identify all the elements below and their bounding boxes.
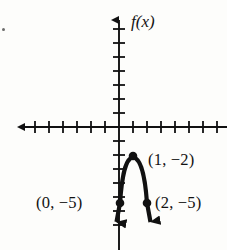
right-point-marker <box>143 199 152 208</box>
y-axis-label: f(x) <box>131 12 155 32</box>
right-point-label: (2, −5) <box>155 193 201 213</box>
graph-figure: f(x) (1, −2) (0, −5) (2, −5) <box>0 0 227 250</box>
parabola-curve <box>117 157 151 222</box>
x-axis <box>25 121 227 133</box>
left-point-marker <box>116 199 125 208</box>
vertex-point-marker <box>129 152 138 161</box>
vertex-point-label: (1, −2) <box>148 150 194 170</box>
left-point-label: (0, −5) <box>36 193 82 213</box>
